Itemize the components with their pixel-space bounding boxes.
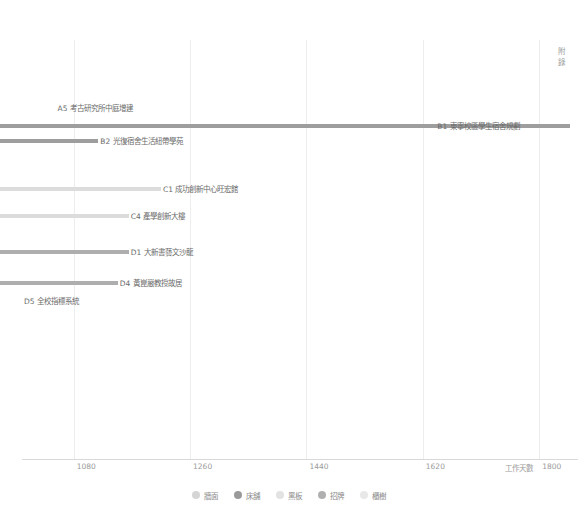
bar-row[interactable]: B2 光復宿舍生活紐帶學苑: [0, 135, 578, 149]
x-tick-label: 1080: [77, 462, 96, 471]
bar-series: A5 考古研究所中庭增建B1 東寧校區學生宿舍規劃B2 光復宿舍生活紐帶學苑C1…: [0, 40, 578, 460]
legend-label: 黑板: [288, 490, 302, 501]
bar-row[interactable]: B1 東寧校區學生宿舍規劃: [0, 120, 578, 134]
bar[interactable]: [0, 250, 129, 254]
bar-label: D4 黃崑嚴教授故居: [120, 277, 182, 290]
legend-swatch-icon: [234, 491, 242, 499]
bar-row[interactable]: A5 考古研究所中庭增建: [0, 102, 578, 116]
x-axis: 工作天數 10801260144016201800: [0, 460, 578, 478]
legend-item[interactable]: 招牌: [318, 490, 344, 501]
x-tick-label: 1260: [193, 462, 212, 471]
legend-swatch-icon: [318, 491, 326, 499]
bar[interactable]: [0, 281, 118, 285]
bar[interactable]: [0, 214, 129, 218]
bar-row[interactable]: D4 黃崑嚴教授故居: [0, 277, 578, 291]
bar-label: D1 大新書藝文沙龍: [131, 246, 193, 259]
bar[interactable]: [0, 187, 161, 191]
legend-label: 招牌: [330, 490, 344, 501]
legend-item[interactable]: 床舖: [234, 490, 260, 501]
bar-row[interactable]: D1 大新書藝文沙龍: [0, 246, 578, 260]
x-axis-title: 工作天數: [505, 462, 533, 473]
bar-row[interactable]: D5 全校指標系統: [0, 295, 578, 309]
bar-label: A5 考古研究所中庭增建: [58, 102, 133, 115]
legend-item[interactable]: 櫃樹: [360, 490, 386, 501]
bar-label: B2 光復宿舍生活紐帶學苑: [100, 135, 182, 148]
bar-label: C1 成功創新中心旺宏館: [163, 183, 238, 196]
legend-label: 床舖: [246, 490, 260, 501]
legend-label: 櫃樹: [372, 490, 386, 501]
bar-row[interactable]: C1 成功創新中心旺宏館: [0, 183, 578, 197]
legend-label: 牆面: [204, 490, 218, 501]
bar-row[interactable]: C4 產學創新大樓: [0, 210, 578, 224]
chart-page: 附 錄 A5 考古研究所中庭增建B1 東寧校區學生宿舍規劃B2 光復宿舍生活紐帶…: [0, 0, 578, 523]
bar-label: D5 全校指標系統: [24, 295, 79, 308]
plot-area: A5 考古研究所中庭增建B1 東寧校區學生宿舍規劃B2 光復宿舍生活紐帶學苑C1…: [0, 40, 578, 460]
legend-item[interactable]: 牆面: [192, 490, 218, 501]
legend-swatch-icon: [276, 491, 284, 499]
bar-label: B1 東寧校區學生宿舍規劃: [437, 120, 519, 133]
bar-label: C4 產學創新大樓: [131, 210, 185, 223]
x-tick-label: 1620: [426, 462, 445, 471]
chart-legend: 牆面床舖黑板招牌櫃樹: [0, 485, 578, 505]
legend-item[interactable]: 黑板: [276, 490, 302, 501]
legend-swatch-icon: [360, 491, 368, 499]
x-tick-label: 1800: [542, 462, 561, 471]
legend-swatch-icon: [192, 491, 200, 499]
bar[interactable]: [0, 139, 98, 143]
x-tick-label: 1440: [309, 462, 328, 471]
